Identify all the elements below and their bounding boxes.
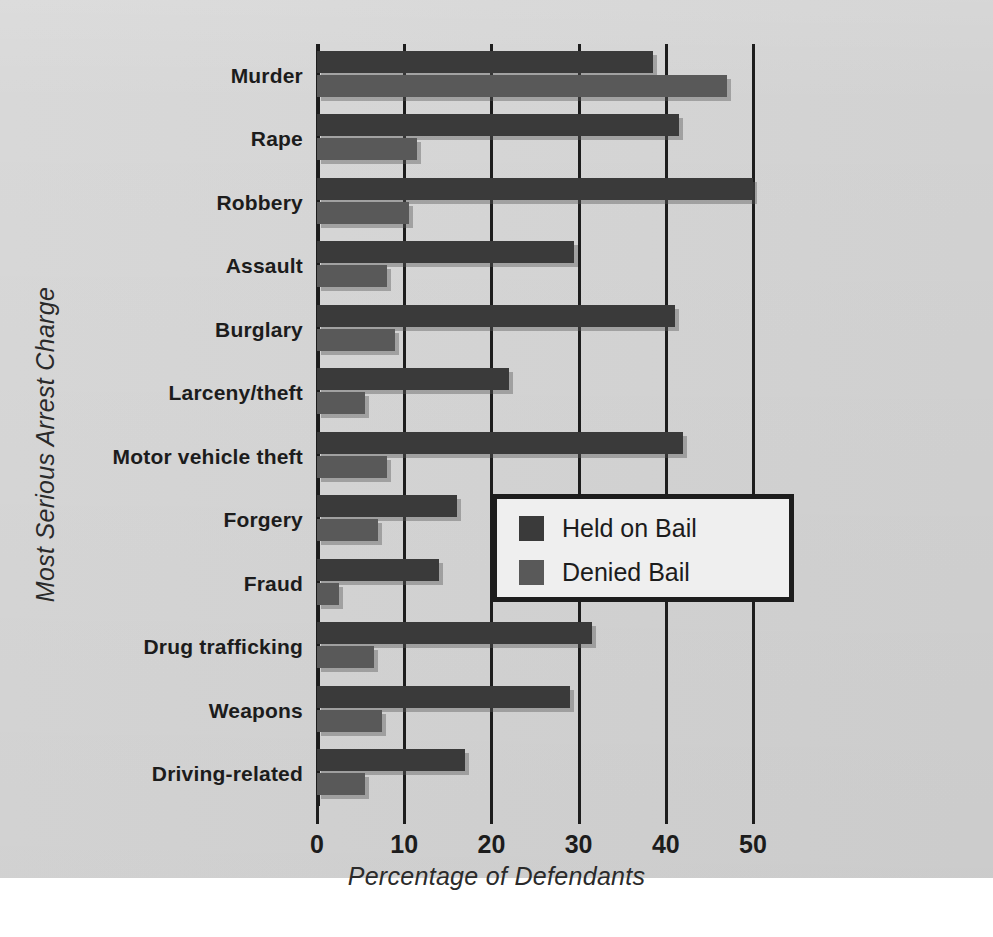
x-tick-label: 40 bbox=[636, 830, 696, 859]
bar-face bbox=[317, 305, 675, 327]
bar-denied-bail bbox=[317, 392, 365, 414]
bar-face bbox=[317, 241, 574, 263]
legend-item: Held on Bail bbox=[519, 513, 697, 543]
bar-face bbox=[317, 686, 570, 708]
category-label: Assault bbox=[226, 254, 303, 278]
y-axis-title: Most Serious Arrest Charge bbox=[31, 210, 60, 680]
x-tick-label: 10 bbox=[374, 830, 434, 859]
bar-denied-bail bbox=[317, 710, 382, 732]
bar-face bbox=[317, 178, 753, 200]
bar-face bbox=[317, 329, 395, 351]
legend-swatch-held-on-bail bbox=[519, 516, 544, 541]
bar-row: Burglary bbox=[317, 298, 753, 362]
bar-face bbox=[317, 202, 409, 224]
bar-face bbox=[317, 368, 509, 390]
bar-row: Drug trafficking bbox=[317, 616, 753, 680]
bar-held-on-bail bbox=[317, 178, 753, 200]
bar-held-on-bail bbox=[317, 686, 570, 708]
bar-held-on-bail bbox=[317, 241, 574, 263]
bar-held-on-bail bbox=[317, 305, 675, 327]
legend-label: Held on Bail bbox=[562, 514, 697, 543]
legend-label: Denied Bail bbox=[562, 558, 690, 587]
category-label: Motor vehicle theft bbox=[113, 445, 303, 469]
bar-held-on-bail bbox=[317, 749, 465, 771]
plot-area: 01020304050 MurderRapeRobberyAssaultBurg… bbox=[317, 44, 753, 806]
bar-held-on-bail bbox=[317, 368, 509, 390]
bar-held-on-bail bbox=[317, 495, 457, 517]
legend-swatch-denied-bail bbox=[519, 560, 544, 585]
bar-row: Motor vehicle theft bbox=[317, 425, 753, 489]
bar-face bbox=[317, 495, 457, 517]
bar-face bbox=[317, 710, 382, 732]
category-label: Rape bbox=[251, 127, 303, 151]
tick-20 bbox=[490, 806, 493, 824]
bar-face bbox=[317, 773, 365, 795]
bar-denied-bail bbox=[317, 773, 365, 795]
bar-row: Driving-related bbox=[317, 743, 753, 807]
x-axis-title: Percentage of Defendants bbox=[0, 862, 993, 891]
bar-row: Larceny/theft bbox=[317, 362, 753, 426]
bar-row: Murder bbox=[317, 44, 753, 108]
bar-face bbox=[317, 583, 339, 605]
bar-row: Assault bbox=[317, 235, 753, 299]
tick-10 bbox=[403, 806, 406, 824]
bar-face bbox=[317, 51, 653, 73]
bar-face bbox=[317, 749, 465, 771]
bar-row: Rape bbox=[317, 108, 753, 172]
category-label: Driving-related bbox=[152, 762, 303, 786]
bar-held-on-bail bbox=[317, 559, 439, 581]
tick-40 bbox=[665, 806, 668, 824]
chart-figure: Most Serious Arrest Charge Percentage of… bbox=[0, 0, 993, 937]
bar-face bbox=[317, 138, 417, 160]
category-label: Robbery bbox=[216, 191, 303, 215]
bar-denied-bail bbox=[317, 138, 417, 160]
x-tick-label: 30 bbox=[549, 830, 609, 859]
bar-held-on-bail bbox=[317, 114, 679, 136]
x-tick-label: 20 bbox=[461, 830, 521, 859]
bar-face bbox=[317, 456, 387, 478]
legend-item: Denied Bail bbox=[519, 557, 690, 587]
bar-held-on-bail bbox=[317, 432, 683, 454]
bar-denied-bail bbox=[317, 265, 387, 287]
category-label: Drug trafficking bbox=[143, 635, 303, 659]
bar-face bbox=[317, 519, 378, 541]
bar-denied-bail bbox=[317, 519, 378, 541]
x-tick-label: 50 bbox=[723, 830, 783, 859]
category-label: Burglary bbox=[215, 318, 303, 342]
chart-panel: Most Serious Arrest Charge Percentage of… bbox=[0, 0, 993, 878]
bar-face bbox=[317, 392, 365, 414]
category-label: Larceny/theft bbox=[169, 381, 303, 405]
bar-face bbox=[317, 75, 727, 97]
bar-held-on-bail bbox=[317, 51, 653, 73]
category-label: Murder bbox=[231, 64, 303, 88]
bar-face bbox=[317, 559, 439, 581]
category-label: Weapons bbox=[209, 699, 303, 723]
bar-face bbox=[317, 432, 683, 454]
bar-denied-bail bbox=[317, 646, 374, 668]
bar-face bbox=[317, 265, 387, 287]
tick-0 bbox=[316, 806, 319, 824]
tick-50 bbox=[752, 806, 755, 824]
bar-face bbox=[317, 114, 679, 136]
category-label: Forgery bbox=[223, 508, 303, 532]
bar-row: Weapons bbox=[317, 679, 753, 743]
bar-row: Robbery bbox=[317, 171, 753, 235]
bar-held-on-bail bbox=[317, 622, 592, 644]
bar-face bbox=[317, 622, 592, 644]
tick-30 bbox=[578, 806, 581, 824]
category-label: Fraud bbox=[244, 572, 303, 596]
bar-denied-bail bbox=[317, 75, 727, 97]
bar-denied-bail bbox=[317, 583, 339, 605]
x-tick-label: 0 bbox=[287, 830, 347, 859]
bar-denied-bail bbox=[317, 456, 387, 478]
bar-face bbox=[317, 646, 374, 668]
bar-denied-bail bbox=[317, 202, 409, 224]
chart-legend: Held on BailDenied Bail bbox=[492, 494, 794, 602]
bar-denied-bail bbox=[317, 329, 395, 351]
